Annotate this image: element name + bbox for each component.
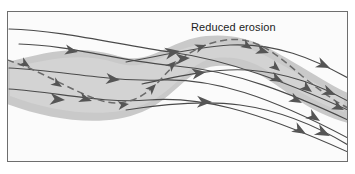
reduced-erosion-label: Reduced erosion xyxy=(191,21,276,33)
figure-root: Reduced erosion xyxy=(0,0,355,174)
river-meander-diagram: Reduced erosion xyxy=(0,0,355,174)
